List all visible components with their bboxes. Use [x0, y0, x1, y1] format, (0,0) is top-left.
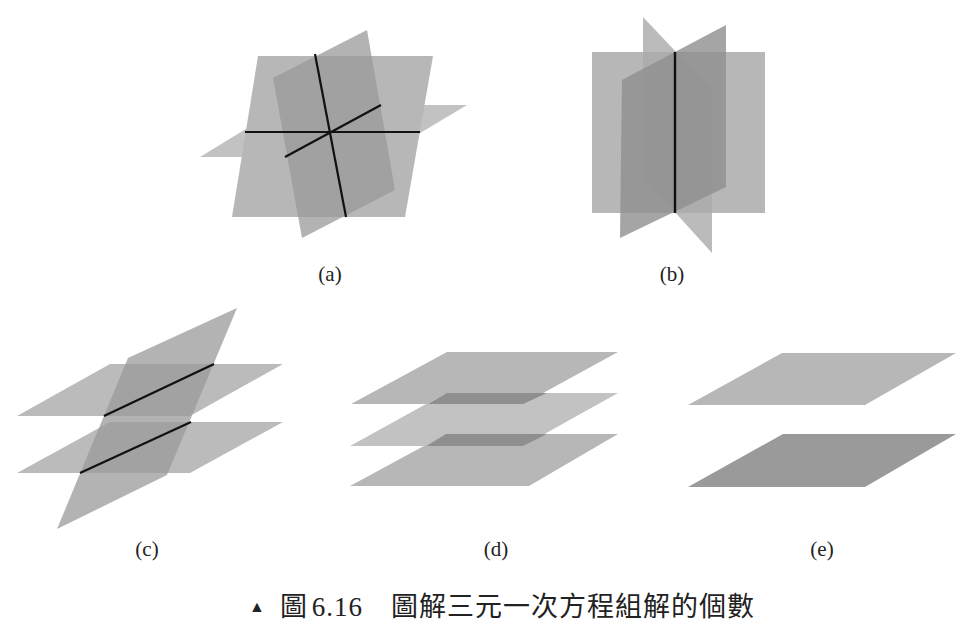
plane-e-bottom	[688, 434, 956, 487]
triangle-marker-icon: ▲	[249, 598, 266, 615]
plane-e-top	[688, 353, 956, 405]
panel-b-label: (b)	[660, 262, 685, 287]
panel-d-label: (d)	[484, 537, 509, 562]
panel-a-label: (a)	[318, 262, 341, 287]
caption-text: 圖解三元一次方程組解的個數	[391, 592, 755, 622]
panel-a-diagram	[200, 30, 467, 238]
panel-d-diagram	[350, 352, 618, 486]
panel-e-diagram	[688, 353, 956, 487]
caption-number: 6.16	[312, 592, 363, 622]
caption-prefix: 圖	[280, 592, 308, 622]
panel-e-label: (e)	[810, 537, 833, 562]
plane-slanted-c	[57, 308, 237, 529]
panel-c-diagram	[17, 308, 283, 529]
figure-caption: ▲圖6.16圖解三元一次方程組解的個數	[249, 585, 755, 623]
panel-b-diagram	[592, 17, 765, 253]
panel-c-label: (c)	[135, 537, 158, 562]
